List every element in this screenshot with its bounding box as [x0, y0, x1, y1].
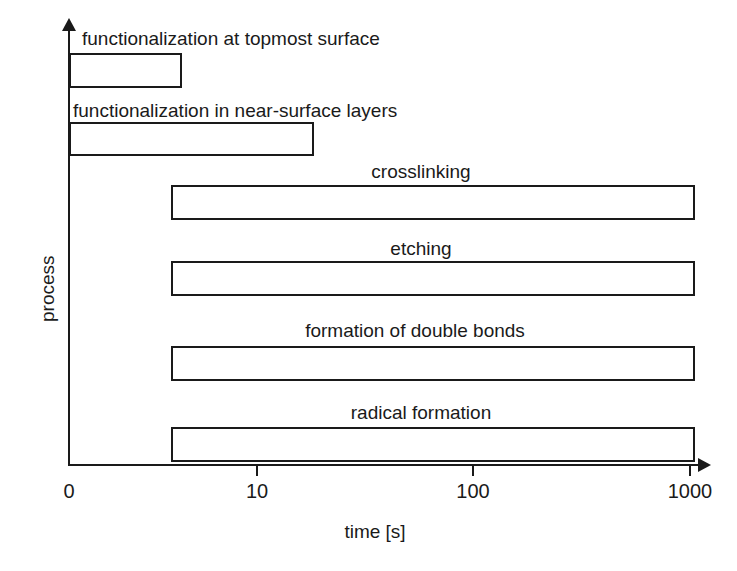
- x-axis-tick-mark: [689, 464, 691, 476]
- x-axis-title: time [s]: [344, 520, 405, 543]
- bar: [69, 53, 182, 88]
- y-axis-line: [68, 28, 70, 466]
- bar-label: functionalization in near-surface layers: [73, 99, 397, 122]
- x-axis-tick-label: 1000: [668, 479, 713, 503]
- x-axis-tick-label: 10: [246, 479, 268, 503]
- bar-label: crosslinking: [371, 160, 470, 183]
- x-axis-line: [68, 464, 700, 466]
- bar: [171, 346, 695, 381]
- x-axis-tick-label: 100: [456, 479, 489, 503]
- x-axis-tick-label: 0: [63, 479, 74, 503]
- x-axis-tick-mark: [256, 464, 258, 476]
- bar-label: etching: [390, 237, 451, 260]
- bar-label: radical formation: [351, 401, 491, 424]
- bar: [69, 122, 314, 156]
- x-axis-arrow-icon: [698, 458, 711, 472]
- x-axis-tick-mark: [472, 464, 474, 476]
- y-axis-arrow-icon: [62, 18, 76, 31]
- bar: [171, 261, 695, 296]
- bar: [171, 185, 695, 220]
- gantt-chart: 0101001000 functionalization at topmost …: [0, 0, 737, 571]
- y-axis-title: process: [36, 255, 59, 322]
- bar-label: functionalization at topmost surface: [82, 27, 380, 50]
- bar: [171, 427, 695, 462]
- bar-label: formation of double bonds: [305, 319, 525, 342]
